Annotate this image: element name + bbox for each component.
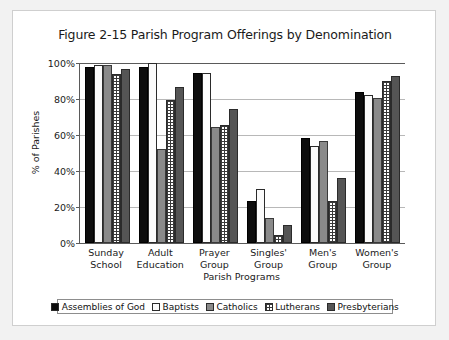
bar-group [85,63,130,243]
y-axis-tick-mark [76,171,80,172]
y-axis-title: % of Parishes [30,88,41,198]
bar [175,87,184,243]
y-axis-tick-label: 20% [54,202,75,213]
bar-group [355,63,400,243]
bar [265,218,274,243]
legend-item[interactable]: Assemblies of God [51,302,145,312]
legend-label: Lutherans [275,302,320,312]
bar [220,125,229,243]
bar [247,201,256,243]
bar [391,76,400,243]
bar [139,67,148,243]
bar [328,201,337,243]
bar [166,100,175,243]
y-axis-tick-label: 60% [54,130,75,141]
bar [211,127,220,243]
bar-group [139,63,184,243]
plot-area: 0%20%40%60%80%100% [79,63,405,244]
bar [112,74,121,243]
bar [274,235,283,243]
bar [301,138,310,243]
bar [148,63,157,243]
bar [157,149,166,244]
bar [337,178,346,243]
bar [193,73,202,243]
chart-screenshot: Figure 2-15 Parish Program Offerings by … [0,0,449,340]
legend-swatch-icon [51,303,59,311]
legend-swatch-icon [327,303,335,311]
bar [382,81,391,243]
bar [310,146,319,243]
bar-group [247,63,292,243]
chart-title: Figure 2-15 Parish Program Offerings by … [13,27,437,42]
bar [373,98,382,243]
legend-label: Catholics [216,302,257,312]
x-axis-tick-label-line: Women's [345,247,409,259]
bar [121,69,130,243]
chart-legend: Assemblies of GodBaptistsCatholicsLuther… [57,299,393,314]
bar [103,65,112,243]
y-axis-tick-mark [76,99,80,100]
legend-swatch-icon [206,303,214,311]
legend-swatch-icon [265,303,273,311]
y-axis-tick-mark [76,135,80,136]
bar [355,92,364,243]
y-axis-tick-mark [76,207,80,208]
legend-item[interactable]: Baptists [152,302,199,312]
x-axis-tick-label: Women'sGroup [345,247,409,270]
y-axis-tick-mark [76,243,80,244]
bar [202,73,211,243]
y-axis-tick-mark [76,63,80,64]
bar [256,189,265,243]
bar-group [193,63,238,243]
x-axis-tick-label-line: Group [345,259,409,271]
bar [283,225,292,243]
y-axis-tick-label: 0% [60,238,75,249]
legend-label: Baptists [163,302,199,312]
legend-item[interactable]: Catholics [206,302,258,312]
chart-card: Figure 2-15 Parish Program Offerings by … [12,10,436,326]
bar [94,65,103,243]
legend-item[interactable]: Presbyterians [327,302,399,312]
y-axis-tick-label: 80% [54,94,75,105]
bar [319,141,328,243]
bar [85,67,94,243]
y-axis-tick-label: 100% [48,58,75,69]
legend-swatch-icon [152,303,160,311]
bar-group [301,63,346,243]
bar [364,95,373,244]
legend-label: Assemblies of God [62,302,145,312]
x-axis-title: Parish Programs [79,271,404,282]
y-axis-tick-label: 40% [54,166,75,177]
bar [229,109,238,243]
legend-label: Presbyterians [338,302,399,312]
legend-item[interactable]: Lutherans [265,302,320,312]
